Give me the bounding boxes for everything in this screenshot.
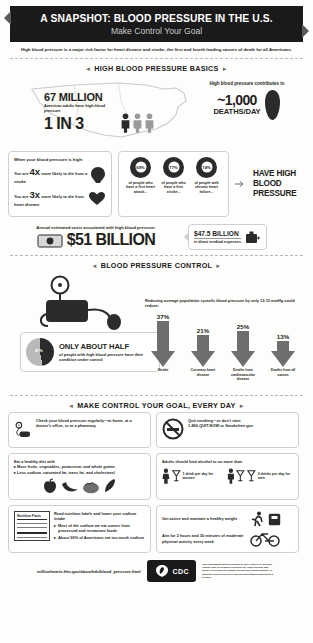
donut-item: 77% of people who have a first stroke... [157, 157, 190, 195]
donut-pct-label: 77% [169, 165, 177, 170]
cdc-logo: CDC [147, 560, 196, 582]
arrow-right-icon: ► [219, 66, 231, 72]
goal-diet-bullet-text: Less sodium, saturated fat, trans fat, a… [17, 470, 115, 475]
control-half-subtitle: of people with high blood pressure have … [59, 352, 154, 362]
donut-chart-heart-failure: 74% [196, 157, 217, 178]
goal-sodium-bullet-text: About 90% of Americans eat too much sodi… [58, 535, 144, 540]
goal-sodium-bullet: ▸ About 90% of Americans eat too much so… [54, 535, 145, 540]
cost-direct-caption: in direct medical expenses [194, 238, 241, 244]
risk-card-head: When your blood pressure is high: [14, 157, 106, 162]
lede-text: High blood pressure is a major risk fact… [19, 47, 294, 53]
basics-cards-row: When your blood pressure is high: You ar… [8, 151, 305, 217]
weight-scale-icon [268, 513, 281, 526]
nutrition-line [17, 523, 47, 524]
bullet-icon: ▸ [14, 464, 16, 469]
section-title-goal: ◄MAKE CONTROL YOUR GOAL, EVERY DAY► [0, 401, 313, 410]
section-title-basics-label: HIGH BLOOD PRESSURE BASICS [94, 64, 218, 73]
cost-direct-card: $47.5 BILLION in direct medical expenses [188, 224, 267, 250]
goal-active-head: Get active and maintain a healthy weight [162, 516, 246, 521]
goal-card-active: Get active and maintain a healthy weight… [156, 505, 299, 553]
million-number: 67 MILLION [44, 91, 122, 103]
alcohol-women-row: 1 drink per day for women [162, 467, 221, 485]
footer: millionhearts.hhs.gov/abouthds/blood_pre… [10, 560, 303, 582]
goal-sodium-bullet-text: Most of the sodium we eat comes from pro… [58, 523, 145, 534]
donut-card: 69% of people who have a first heart att… [118, 151, 229, 217]
cocktail-glass-icon [247, 469, 256, 483]
person-icon [132, 113, 143, 133]
arrow-right-icon [235, 180, 245, 188]
control-half-card: 47% ONLY ABOUT HALF of people with high … [20, 332, 160, 372]
risk-stroke-pre: You are [14, 171, 28, 176]
risk-stroke-multiplier: 4x [30, 166, 41, 177]
section-title-control: ◄BLOOD PRESSURE CONTROL► [0, 261, 313, 270]
bar-value-label: 21% [185, 327, 221, 334]
goal-sodium-text: Read nutrition labels and lower your sod… [54, 511, 145, 540]
cost-caption: Annual estimated costs associated with h… [8, 225, 184, 230]
down-arrow-bar [191, 335, 215, 367]
goal-cards-grid: Check your blood pressure regularly—at h… [8, 412, 305, 553]
header-banner: A SNAPSHOT: BLOOD PRESSURE IN THE U.S. M… [10, 6, 303, 42]
section-title-goal-label: MAKE CONTROL YOUR GOAL, EVERY DAY [77, 401, 235, 410]
down-arrow-bar [151, 321, 175, 367]
deaths-stat: High blood pressure contributes to ~1,00… [193, 81, 301, 120]
pie-chart-control: 47% [26, 338, 54, 366]
deaths-caption: High blood pressure contributes to [193, 81, 301, 87]
page-subtitle: Make Control Your Goal [16, 26, 297, 36]
cdc-logo-text: CDC [173, 568, 189, 575]
down-arrow-bar [271, 341, 295, 367]
blood-pressure-cuff-icon [34, 274, 130, 332]
chart-bars: 37% 21% 25% [145, 311, 305, 367]
bar-column: 21% [185, 311, 221, 367]
donut-caption: of people who have a first stroke... [157, 181, 190, 195]
have-high-blood-pressure-label: HAVE HIGH BLOOD PRESSURE [251, 169, 305, 198]
donut-item: 74% of people with chronic heart failure… [190, 157, 223, 195]
banana-icon [61, 480, 79, 494]
chart-title: Reducing average population systolic blo… [145, 298, 305, 308]
risk-stroke-text: You are 4x more likely to die from a str… [14, 166, 88, 184]
divider-bottom [10, 395, 303, 396]
brain-stroke-icon [90, 166, 106, 184]
bar-category-label: Stroke [145, 368, 181, 381]
divider-top [10, 58, 303, 59]
goal-active-row-2: Aim for 2 hours and 30 minutes of modera… [162, 530, 293, 547]
header: A SNAPSHOT: BLOOD PRESSURE IN THE U.S. M… [0, 0, 313, 53]
donut-item: 69% of people who have a first heart att… [124, 157, 157, 195]
bar-category-label: Deaths from cardiovascular disease [225, 368, 261, 381]
arrow-left-icon: ◄ [65, 403, 77, 409]
million-stat: 67 MILLION American adults have high blo… [44, 91, 122, 133]
bullet-icon: ▸ [54, 523, 56, 534]
bar-category-label: Deaths from all causes [265, 368, 301, 381]
arrow-connector [235, 151, 245, 217]
goal-diet-bullet: ▸ Less sodium, saturated fat, trans fat,… [14, 470, 145, 475]
donut-group: 69% of people who have a first heart att… [124, 157, 223, 195]
hhs-seal-icon [154, 564, 170, 578]
cost-total-value: $51 BILLION [67, 231, 156, 249]
donut-pct-label: 74% [202, 165, 210, 170]
risk-stroke-row: You are 4x more likely to die from a str… [14, 166, 106, 184]
bullet-icon: ▸ [54, 535, 56, 540]
million-subtext: American adults have high blood pressure [44, 104, 122, 114]
cocktail-glass-icon [236, 469, 245, 483]
heart-icon [88, 191, 106, 206]
footer-url[interactable]: millionhearts.hhs.gov/abouthds/blood_pre… [37, 569, 141, 574]
page-title: A SNAPSHOT: BLOOD PRESSURE IN THE U.S. [16, 13, 297, 24]
goal-sodium-head: Read nutrition labels and lower your sod… [54, 511, 145, 522]
risk-card: When your blood pressure is high: You ar… [8, 151, 112, 217]
goal-card-quit-smoking: Quit smoking—or don't start 1-800-QUIT-N… [156, 412, 299, 448]
running-person-icon [250, 511, 264, 527]
goal-card-sodium: Nutrition Facts Read nutrition labels an… [8, 505, 151, 553]
goal-card-alcohol: Adults should limit alcohol to no more t… [156, 453, 299, 500]
section-title-control-label: BLOOD PRESSURE CONTROL [101, 261, 213, 270]
bullet-icon: ▸ [14, 470, 16, 475]
risk-heart-row: You are 3x more likely to die from heart… [14, 189, 106, 207]
nutrition-line [17, 527, 47, 528]
bread-icon [82, 481, 100, 494]
deaths-label: DEATHS/DAY [213, 107, 260, 116]
person-icon [144, 113, 155, 133]
nutrition-line [17, 537, 47, 538]
control-half-title: ONLY ABOUT HALF [59, 342, 154, 351]
arrow-right-icon: ► [236, 403, 248, 409]
chart-category-labels: Stroke Coronary heart disease Deaths fro… [145, 368, 305, 381]
bar-column: 25% [225, 311, 261, 367]
bar-column: 37% [145, 311, 181, 367]
